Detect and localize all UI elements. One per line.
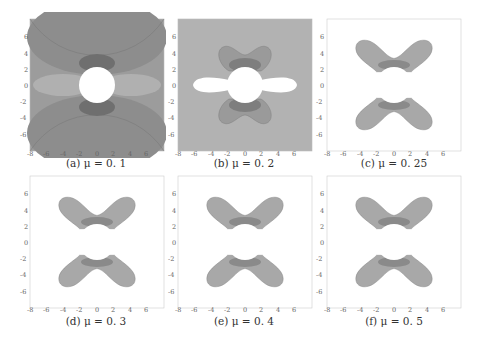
svg-text:6: 6 <box>320 33 324 41</box>
svg-text:-2: -2 <box>373 306 379 314</box>
svg-text:-2: -2 <box>316 98 322 106</box>
svg-text:-4: -4 <box>168 271 174 279</box>
y-axis-ticks-d: 6 4 2 0 -2 -4 -6 <box>20 190 28 296</box>
svg-text:-4: -4 <box>316 271 322 279</box>
svg-text:-8: -8 <box>324 306 330 314</box>
y-axis-ticks-a: 6 4 2 0 -2 -4 -6 <box>20 33 28 139</box>
caption-e: (e) μ = 0. 4 <box>174 315 314 327</box>
svg-text:6: 6 <box>172 33 176 41</box>
svg-text:2: 2 <box>172 66 176 74</box>
svg-text:6: 6 <box>24 33 28 41</box>
svg-text:-8: -8 <box>27 306 33 314</box>
svg-text:4: 4 <box>320 207 324 215</box>
y-axis-ticks-b: 6 4 2 0 -2 -4 -6 <box>168 33 176 139</box>
svg-text:4: 4 <box>172 207 176 215</box>
svg-text:4: 4 <box>320 50 324 58</box>
svg-text:0: 0 <box>24 239 28 247</box>
subplot-e: 6 4 2 0 -2 -4 -6 -8 -6 -4 -2 0 2 4 6 (e)… <box>164 170 314 335</box>
y-axis-ticks-f: 6 4 2 0 -2 -4 -6 <box>316 190 324 296</box>
contour-plot-e: 6 4 2 0 -2 -4 -6 -8 -6 -4 -2 0 2 4 6 <box>164 170 316 316</box>
svg-text:-6: -6 <box>43 306 49 314</box>
subplot-a: 6 4 2 0 -2 -4 -6 -8 -6 -4 -2 0 2 4 6 (a)… <box>14 12 164 177</box>
svg-text:-2: -2 <box>224 306 230 314</box>
svg-text:-2: -2 <box>168 255 174 263</box>
svg-text:-6: -6 <box>191 306 197 314</box>
subplot-b: 6 4 2 0 -2 -4 -6 -8 -6 -4 -2 0 2 4 6 (b)… <box>164 12 314 177</box>
svg-text:-6: -6 <box>20 288 26 296</box>
svg-text:4: 4 <box>24 207 28 215</box>
caption-c: (c) μ = 0. 25 <box>324 157 464 169</box>
svg-text:2: 2 <box>111 306 115 314</box>
svg-text:2: 2 <box>24 66 28 74</box>
contour-plot-f: 6 4 2 0 -2 -4 -6 -8 -6 -4 -2 0 2 4 6 <box>312 170 464 316</box>
svg-text:6: 6 <box>172 190 176 198</box>
svg-text:-2: -2 <box>168 98 174 106</box>
svg-text:0: 0 <box>243 306 247 314</box>
svg-text:6: 6 <box>24 190 28 198</box>
svg-text:-2: -2 <box>20 255 26 263</box>
svg-text:0: 0 <box>392 306 396 314</box>
svg-text:2: 2 <box>259 306 263 314</box>
svg-text:2: 2 <box>408 306 412 314</box>
caption-f: (f) μ = 0. 5 <box>324 315 464 327</box>
y-axis-ticks-c: 6 4 2 0 -2 -4 -6 <box>316 33 324 139</box>
svg-text:-4: -4 <box>208 306 214 314</box>
svg-text:-4: -4 <box>316 114 322 122</box>
svg-text:6: 6 <box>320 190 324 198</box>
svg-text:-6: -6 <box>316 131 322 139</box>
caption-d: (d) μ = 0. 3 <box>26 315 166 327</box>
svg-text:-4: -4 <box>168 114 174 122</box>
svg-text:0: 0 <box>172 239 176 247</box>
svg-text:-4: -4 <box>357 306 363 314</box>
svg-text:0: 0 <box>172 82 176 90</box>
svg-text:4: 4 <box>276 306 280 314</box>
subplot-d: 6 4 2 0 -2 -4 -6 -8 -6 -4 -2 0 2 4 6 (d)… <box>14 170 164 335</box>
subplot-f: 6 4 2 0 -2 -4 -6 -8 -6 -4 -2 0 2 4 6 (f)… <box>312 170 462 335</box>
svg-text:-4: -4 <box>20 114 26 122</box>
svg-text:-2: -2 <box>316 255 322 263</box>
subplot-c: 6 4 2 0 -2 -4 -6 -8 -6 -4 -2 0 2 4 6 (c)… <box>312 12 462 177</box>
svg-text:-6: -6 <box>20 131 26 139</box>
svg-text:4: 4 <box>425 306 429 314</box>
contour-plot-c: 6 4 2 0 -2 -4 -6 -8 -6 -4 -2 0 2 4 6 <box>312 12 464 158</box>
contour-plot-a: 6 4 2 0 -2 -4 -6 -8 -6 -4 -2 0 2 4 6 <box>14 12 166 158</box>
svg-text:-2: -2 <box>20 98 26 106</box>
svg-text:6: 6 <box>292 306 296 314</box>
svg-text:-8: -8 <box>175 306 181 314</box>
svg-text:2: 2 <box>172 223 176 231</box>
svg-text:-6: -6 <box>340 306 346 314</box>
svg-text:0: 0 <box>320 82 324 90</box>
svg-text:2: 2 <box>320 66 324 74</box>
svg-text:-6: -6 <box>168 288 174 296</box>
svg-text:-4: -4 <box>60 306 66 314</box>
svg-text:6: 6 <box>144 306 148 314</box>
contour-plot-b: 6 4 2 0 -2 -4 -6 -8 -6 -4 -2 0 2 4 6 <box>164 12 316 158</box>
svg-text:-6: -6 <box>316 288 322 296</box>
svg-text:2: 2 <box>24 223 28 231</box>
svg-text:4: 4 <box>172 50 176 58</box>
contour-plot-d: 6 4 2 0 -2 -4 -6 -8 -6 -4 -2 0 2 4 6 <box>14 170 166 316</box>
svg-text:6: 6 <box>441 306 445 314</box>
svg-text:0: 0 <box>320 239 324 247</box>
svg-text:2: 2 <box>320 223 324 231</box>
y-axis-ticks-e: 6 4 2 0 -2 -4 -6 <box>168 190 176 296</box>
svg-text:0: 0 <box>24 82 28 90</box>
svg-text:-2: -2 <box>76 306 82 314</box>
svg-text:4: 4 <box>24 50 28 58</box>
svg-text:-4: -4 <box>20 271 26 279</box>
svg-text:4: 4 <box>128 306 132 314</box>
caption-b: (b) μ = 0. 2 <box>174 157 314 169</box>
svg-text:0: 0 <box>95 306 99 314</box>
caption-a: (a) μ = 0. 1 <box>26 157 166 169</box>
svg-text:-6: -6 <box>168 131 174 139</box>
